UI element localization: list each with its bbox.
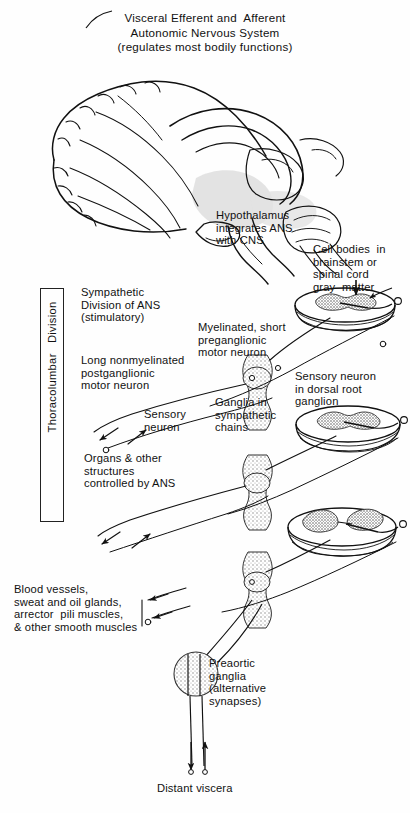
spinal-cord-segment-2 (296, 406, 407, 452)
label-postganglionic-neuron: Long nonmyelinated postganglionic motor … (81, 354, 184, 392)
spinal-cord-segment-3 (288, 508, 406, 556)
figure-title: Visceral Efferent and AfferentAutonomic … (0, 11, 410, 55)
label-sympathetic-division: Sympathetic Division of ANS (stimulatory… (81, 286, 160, 324)
figure-title-line-1: Visceral Efferent and Afferent (124, 11, 285, 24)
label-preaortic-ganglia: Preaortic ganglia (alternative synapses) (209, 657, 266, 707)
label-cell-bodies: Cell bodies in brainstem or spinal cord … (313, 243, 386, 293)
label-sensory-dorsal-root: Sensory neuron in dorsal root ganglion (295, 370, 376, 408)
label-hypothalamus: Hypothalamus integrates ANS with CNS (216, 209, 293, 247)
figure-canvas: Visceral Efferent and AfferentAutonomic … (0, 0, 410, 813)
label-organs: Organs & other structures controlled by … (84, 452, 175, 490)
label-sensory-neuron: Sensory neuron (144, 408, 186, 433)
thoracolumbar-bracket: Thoracolumbar Division (40, 288, 64, 522)
label-distant-viscera: Distant viscera (157, 782, 233, 795)
figure-title-line-2: Autonomic Nervous System (130, 26, 279, 39)
label-preganglionic-neuron: Myelinated, short preganglionic motor ne… (198, 321, 286, 359)
figure-title-line-3: (regulates most bodily functions) (117, 40, 292, 53)
thoracolumbar-label: Thoracolumbar Division (46, 292, 58, 442)
label-ganglia-chains: Ganglia in sympathetic chains (215, 396, 276, 434)
brain-sagittal-drawing (52, 81, 352, 284)
label-effectors: Blood vessels, sweat and oil glands, arr… (14, 583, 137, 633)
